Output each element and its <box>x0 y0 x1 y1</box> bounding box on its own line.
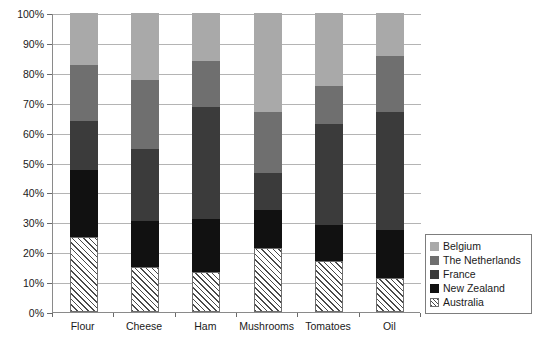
bar-segment-flour-new-zealand[interactable] <box>70 170 98 237</box>
x-tick-mark <box>175 313 176 317</box>
bar-segment-ham-the-netherlands[interactable] <box>192 61 220 107</box>
gridline <box>53 74 421 75</box>
legend-item-belgium[interactable]: Belgium <box>430 239 528 253</box>
legend-item-label: Australia <box>443 297 484 308</box>
bar-tomatoes[interactable] <box>315 13 343 312</box>
y-tick-label: 50% <box>0 159 44 169</box>
bar-segment-cheese-france[interactable] <box>131 149 159 221</box>
x-tick-mark <box>359 313 360 317</box>
y-tick-label: 0% <box>0 308 44 318</box>
black-swatch <box>430 284 439 293</box>
x-tick-mark <box>420 313 421 317</box>
gridline <box>53 104 421 105</box>
bar-segment-ham-australia[interactable] <box>192 272 220 312</box>
bar-segment-cheese-new-zealand[interactable] <box>131 221 159 267</box>
y-tick-label: 80% <box>0 69 44 79</box>
bar-segment-cheese-belgium[interactable] <box>131 13 159 80</box>
bar-segment-mushrooms-france[interactable] <box>254 173 282 210</box>
bar-segment-tomatoes-belgium[interactable] <box>315 13 343 86</box>
bar-segment-mushrooms-belgium[interactable] <box>254 13 282 112</box>
legend-item-label: Belgium <box>443 241 481 252</box>
bar-segment-tomatoes-the-netherlands[interactable] <box>315 86 343 123</box>
bar-segment-cheese-australia[interactable] <box>131 267 159 312</box>
bar-segment-cheese-the-netherlands[interactable] <box>131 80 159 149</box>
gridline <box>53 164 421 165</box>
bar-segment-flour-the-netherlands[interactable] <box>70 65 98 120</box>
bar-segment-mushrooms-the-netherlands[interactable] <box>254 112 282 173</box>
legend-item-australia[interactable]: Australia <box>430 295 528 309</box>
bar-segment-tomatoes-france[interactable] <box>315 124 343 226</box>
bar-mushrooms[interactable] <box>254 13 282 312</box>
bar-segment-ham-new-zealand[interactable] <box>192 219 220 271</box>
x-tick-mark <box>113 313 114 317</box>
dark-gray-swatch <box>430 270 439 279</box>
bar-ham[interactable] <box>192 13 220 312</box>
bar-segment-tomatoes-new-zealand[interactable] <box>315 225 343 261</box>
legend-item-label: The Netherlands <box>443 255 521 266</box>
chart-legend: BelgiumThe NetherlandsFranceNew ZealandA… <box>425 234 532 314</box>
gridline <box>53 283 421 284</box>
bar-segment-oil-the-netherlands[interactable] <box>376 56 404 111</box>
bar-segment-flour-australia[interactable] <box>70 237 98 312</box>
legend-item-france[interactable]: France <box>430 267 528 281</box>
bar-oil[interactable] <box>376 13 404 312</box>
hatched-swatch <box>430 298 439 307</box>
bar-segment-oil-france[interactable] <box>376 112 404 230</box>
legend-item-the-netherlands[interactable]: The Netherlands <box>430 253 528 267</box>
gridline <box>53 134 421 135</box>
stacked-bar-chart: 0%10%20%30%40%50%60%70%80%90%100% FlourC… <box>0 0 541 347</box>
medium-gray-swatch <box>430 256 439 265</box>
y-tick-label: 30% <box>0 218 44 228</box>
y-tick-label: 20% <box>0 248 44 258</box>
bar-segment-ham-france[interactable] <box>192 107 220 219</box>
x-axis-label-oil: Oil <box>349 321 429 332</box>
plot-area <box>52 14 420 313</box>
x-tick-mark <box>52 313 53 317</box>
y-tick-label: 70% <box>0 99 44 109</box>
legend-item-label: France <box>443 269 476 280</box>
bar-segment-mushrooms-australia[interactable] <box>254 248 282 312</box>
y-tick-label: 40% <box>0 188 44 198</box>
bar-cheese[interactable] <box>131 13 159 312</box>
bar-flour[interactable] <box>70 13 98 312</box>
bar-segment-tomatoes-australia[interactable] <box>315 261 343 312</box>
x-tick-mark <box>297 313 298 317</box>
x-tick-mark <box>236 313 237 317</box>
gridline <box>53 44 421 45</box>
gridline <box>53 253 421 254</box>
bar-segment-ham-belgium[interactable] <box>192 13 220 61</box>
y-tick-label: 100% <box>0 9 44 19</box>
y-tick-label: 90% <box>0 39 44 49</box>
y-tick-label: 60% <box>0 129 44 139</box>
gridline <box>53 223 421 224</box>
legend-item-new-zealand[interactable]: New Zealand <box>430 281 528 295</box>
bar-segment-flour-belgium[interactable] <box>70 13 98 65</box>
gridline <box>53 14 421 15</box>
bar-segment-mushrooms-new-zealand[interactable] <box>254 210 282 247</box>
light-gray-swatch <box>430 242 439 251</box>
bar-segment-flour-france[interactable] <box>70 121 98 170</box>
legend-item-label: New Zealand <box>443 283 505 294</box>
y-tick-label: 10% <box>0 278 44 288</box>
bar-segment-oil-belgium[interactable] <box>376 13 404 56</box>
bar-segment-oil-australia[interactable] <box>376 278 404 312</box>
bar-segment-oil-new-zealand[interactable] <box>376 230 404 278</box>
gridline <box>53 193 421 194</box>
